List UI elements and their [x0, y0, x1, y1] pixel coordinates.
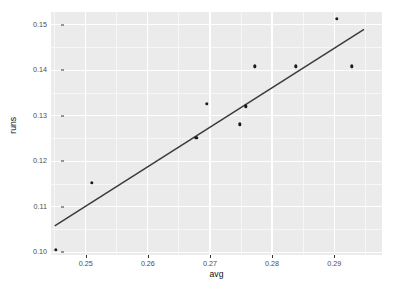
- y-tick-label: 0.13: [17, 112, 47, 119]
- scatter-plot-figure: 0.100.110.120.130.140.15 0.250.260.270.2…: [0, 0, 394, 298]
- x-tick-label: 0.25: [69, 260, 103, 267]
- y-tick-label: 0.14: [17, 67, 47, 74]
- x-tick-mark: [148, 255, 149, 258]
- x-tick-mark: [86, 255, 87, 258]
- y-tick-mark: [61, 24, 64, 25]
- y-tick-mark: [61, 115, 64, 116]
- data-point: [335, 17, 338, 20]
- data-point: [195, 136, 198, 139]
- data-point: [205, 102, 208, 105]
- data-point: [253, 64, 256, 67]
- data-point: [238, 123, 241, 126]
- data-points-layer: [51, 12, 382, 255]
- data-point: [294, 64, 297, 67]
- x-tick-label: 0.28: [255, 260, 289, 267]
- data-point: [54, 248, 57, 251]
- x-tick-label: 0.27: [193, 260, 227, 267]
- data-point: [350, 64, 353, 67]
- x-tick-mark: [210, 255, 211, 258]
- x-tick-mark: [334, 255, 335, 258]
- y-tick-label: 0.12: [17, 158, 47, 165]
- y-axis-label: runs: [9, 95, 18, 155]
- y-tick-mark: [61, 252, 64, 253]
- y-tick-label: 0.10: [17, 249, 47, 256]
- y-tick-mark: [61, 70, 64, 71]
- y-axis-ticks: 0.100.110.120.130.140.15: [14, 12, 47, 255]
- x-tick-label: 0.26: [131, 260, 165, 267]
- x-axis-label: avg: [51, 270, 382, 279]
- y-tick-mark: [61, 161, 64, 162]
- y-tick-label: 0.15: [17, 21, 47, 28]
- y-tick-label: 0.11: [17, 203, 47, 210]
- x-tick-label: 0.29: [317, 260, 351, 267]
- y-tick-mark: [61, 206, 64, 207]
- x-tick-mark: [272, 255, 273, 258]
- data-point: [244, 104, 247, 107]
- data-point: [90, 181, 93, 184]
